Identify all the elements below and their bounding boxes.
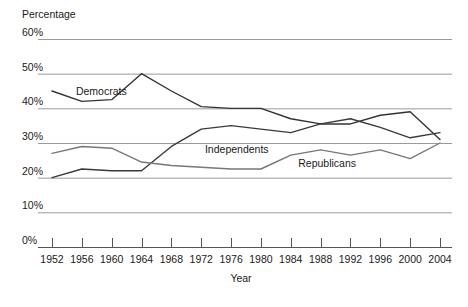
series-label-independents: Independents <box>205 143 269 155</box>
y-axis-tick-label: 0% <box>22 234 37 246</box>
y-axis-tick-label: 30% <box>22 130 43 142</box>
x-axis-tick-label: 1956 <box>70 253 93 265</box>
y-axis-tick-label: 40% <box>22 95 43 107</box>
x-axis-tick-label: 1980 <box>249 253 272 265</box>
x-axis-tick-label: 2004 <box>428 253 451 265</box>
chart-container: Percentage 0%10%20%30%40%50%60% 19521956… <box>0 0 468 307</box>
x-axis-tick-label: 1976 <box>219 253 242 265</box>
y-axis-tick-label: 10% <box>22 199 43 211</box>
x-axis-tick-label: 1968 <box>160 253 183 265</box>
x-axis-tick-label: 1988 <box>309 253 332 265</box>
x-axis-title: Year <box>0 272 468 284</box>
x-axis-tick-label: 1984 <box>279 253 302 265</box>
x-axis-tick-label: 1960 <box>100 253 123 265</box>
x-axis-tick-label: 1952 <box>40 253 63 265</box>
y-axis-tick-label: 20% <box>22 165 43 177</box>
x-axis-tick-label: 1996 <box>369 253 392 265</box>
series-label-republicans: Republicans <box>298 157 356 169</box>
x-axis-tick-label: 2000 <box>398 253 421 265</box>
x-axis-tick-label: 1972 <box>190 253 213 265</box>
y-axis-tick-label: 50% <box>22 61 43 73</box>
series-label-democrats: Democrats <box>76 85 127 97</box>
x-axis-tick-label: 1992 <box>339 253 362 265</box>
y-axis-tick-label: 60% <box>22 26 43 38</box>
x-axis-tick-label: 1964 <box>130 253 153 265</box>
series-line-democrats <box>52 74 440 140</box>
x-axis-title-text: Year <box>230 272 251 284</box>
